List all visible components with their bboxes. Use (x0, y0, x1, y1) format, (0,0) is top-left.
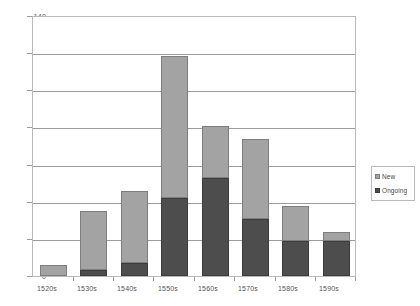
bar-segment-ongoing[interactable] (80, 270, 107, 276)
bar-segment-new[interactable] (202, 126, 229, 178)
legend-item-new: New (375, 171, 411, 182)
bar-segment-new[interactable] (80, 211, 107, 270)
plot-area (32, 16, 356, 277)
gridline (33, 91, 355, 92)
x-tick-mark (194, 277, 195, 281)
bar-segment-ongoing[interactable] (242, 219, 269, 276)
x-tick-label: 1580s (265, 285, 311, 293)
x-tick-mark (153, 277, 154, 281)
bar-segment-ongoing[interactable] (323, 241, 350, 276)
legend-item-ongoing: Ongoing (375, 185, 411, 196)
gridline (33, 203, 355, 204)
gridline (33, 166, 355, 167)
legend-swatch-ongoing-icon (375, 188, 380, 193)
bar-segment-ongoing[interactable] (282, 241, 309, 276)
x-tick-mark (234, 277, 235, 281)
chart-legend: New Ongoing (371, 166, 415, 201)
x-tick-mark (315, 277, 316, 281)
bar-segment-new[interactable] (323, 232, 350, 241)
legend-label-ongoing: Ongoing (382, 187, 407, 194)
x-tick-label: 1540s (104, 285, 150, 293)
bar-segment-new[interactable] (242, 139, 269, 219)
gridline (33, 128, 355, 129)
bar-segment-ongoing[interactable] (161, 198, 188, 276)
bar-segment-ongoing[interactable] (121, 263, 148, 276)
bar-segment-new[interactable] (161, 56, 188, 198)
bar-segment-new[interactable] (40, 265, 67, 276)
legend-swatch-new-icon (375, 174, 380, 179)
x-tick-mark (355, 277, 356, 281)
x-tick-mark (73, 277, 74, 281)
bar-segment-ongoing[interactable] (202, 178, 229, 276)
bar-segment-new[interactable] (282, 206, 309, 241)
gridline (33, 54, 355, 55)
x-tick-mark (275, 277, 276, 281)
x-tick-mark (113, 277, 114, 281)
bar-segment-new[interactable] (121, 191, 148, 263)
x-tick-label: 1590s (306, 285, 352, 293)
stacked-bar-chart: 140 120 100 80 60 40 20 0 1520s 1530s 15… (0, 0, 420, 306)
legend-label-new: New (382, 173, 395, 180)
